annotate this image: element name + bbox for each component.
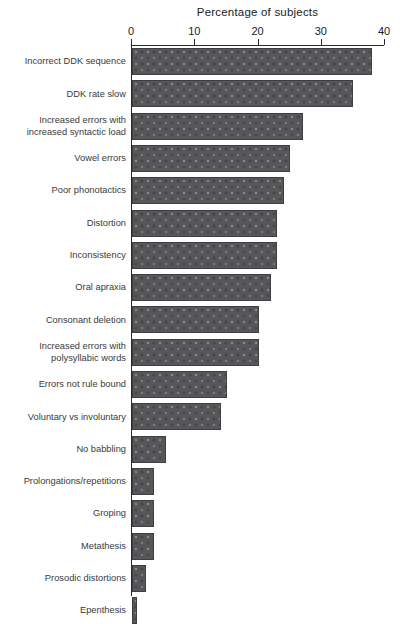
x-tick-label: 30 (315, 25, 327, 37)
bar-row: No babbling (0, 436, 400, 463)
category-label: Inconsistency (70, 249, 126, 262)
bar (132, 371, 227, 398)
bar (132, 436, 166, 463)
category-label: Voluntary vs involuntary (28, 411, 126, 424)
x-tick-mark (258, 39, 259, 45)
bar (132, 468, 154, 495)
x-axis-tick-labels: 010203040 (0, 25, 400, 39)
category-label: Prolongations/repetitions (24, 475, 126, 488)
bar (132, 533, 154, 560)
bar-row: Incorrect DDK sequence (0, 48, 400, 75)
category-label: Prosodic distortions (45, 572, 126, 585)
bar-row: Voluntary vs involuntary (0, 403, 400, 430)
category-label: Consonant deletion (46, 314, 126, 327)
bar (132, 242, 277, 269)
bar-row: Inconsistency (0, 242, 400, 269)
category-label: Epenthesis (80, 604, 126, 617)
bar-row: Consonant deletion (0, 306, 400, 333)
category-label: Groping (93, 507, 126, 520)
x-tick-label: 10 (188, 25, 200, 37)
category-label: Increased errors with increased syntacti… (27, 114, 126, 139)
bar-row: Distortion (0, 210, 400, 237)
bar (132, 597, 137, 624)
category-label: Poor phonotactics (52, 184, 126, 197)
x-tick-label: 20 (251, 25, 263, 37)
x-tick-mark (194, 39, 195, 45)
bar (132, 177, 284, 204)
bar-row: Increased errors with increased syntacti… (0, 113, 400, 140)
plot-area: Incorrect DDK sequenceDDK rate slowIncre… (0, 45, 400, 597)
bar-row: Oral apraxia (0, 274, 400, 301)
category-label: Incorrect DDK sequence (25, 55, 126, 68)
bar (132, 80, 353, 107)
category-label: No babbling (76, 443, 126, 456)
bar (132, 48, 372, 75)
bar (132, 403, 221, 430)
category-label: Oral apraxia (75, 281, 126, 294)
x-tick-mark (384, 39, 385, 45)
bar-row: DDK rate slow (0, 80, 400, 107)
category-label: Distortion (87, 217, 126, 230)
bar-row: Vowel errors (0, 145, 400, 172)
bar (132, 339, 259, 366)
category-label: Increased errors with polysyllabic words (39, 340, 126, 365)
bar (132, 565, 146, 592)
bar (132, 145, 290, 172)
bar (132, 500, 154, 527)
category-label: DDK rate slow (67, 88, 126, 101)
bar-row: Increased errors with polysyllabic words (0, 339, 400, 366)
bar-row: Metathesis (0, 533, 400, 560)
bar-row: Prolongations/repetitions (0, 468, 400, 495)
bar (132, 306, 259, 333)
category-label: Errors not rule bound (39, 378, 126, 391)
x-tick-label: 40 (378, 25, 390, 37)
x-tick-mark (321, 39, 322, 45)
bar-row: Groping (0, 500, 400, 527)
bar (132, 210, 277, 237)
category-label: Vowel errors (74, 152, 126, 165)
bar-row: Prosodic distortions (0, 565, 400, 592)
bar-row: Errors not rule bound (0, 371, 400, 398)
bar (132, 113, 303, 140)
category-label: Metathesis (81, 540, 126, 553)
bar (132, 274, 271, 301)
bar-row: Poor phonotactics (0, 177, 400, 204)
bar-row: Epenthesis (0, 597, 400, 624)
x-tick-mark (131, 39, 132, 45)
chart-title: Percentage of subjects (131, 6, 384, 18)
x-tick-label: 0 (128, 25, 134, 37)
